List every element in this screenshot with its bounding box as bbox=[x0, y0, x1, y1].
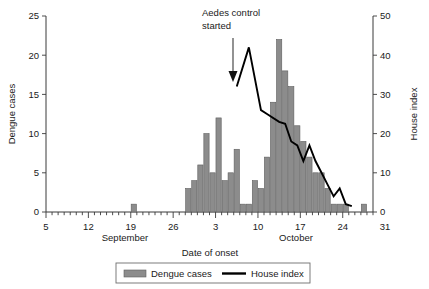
x-tick-label: 5 bbox=[43, 221, 48, 232]
legend-swatch-bar bbox=[124, 270, 146, 277]
x-tick-label: 26 bbox=[168, 221, 179, 232]
bar bbox=[228, 173, 233, 212]
x-tick-label: 3 bbox=[213, 221, 218, 232]
bar bbox=[361, 204, 366, 212]
bar bbox=[234, 149, 239, 212]
bar bbox=[301, 141, 306, 212]
annotation-arrow-head bbox=[229, 71, 238, 82]
y-tick-label-left: 25 bbox=[28, 10, 39, 21]
y-tick-label-right: 40 bbox=[380, 50, 391, 61]
dengue-house-index-chart: 0510152025 01020304050 5121926310172431 … bbox=[0, 0, 429, 289]
y-axis-right-title: House index bbox=[408, 87, 419, 140]
x-tick-label: 12 bbox=[83, 221, 94, 232]
y-axis-right-ticks: 01020304050 bbox=[373, 10, 391, 217]
bar bbox=[313, 173, 318, 212]
y-tick-label-right: 0 bbox=[380, 206, 385, 217]
bar bbox=[277, 40, 282, 212]
bar bbox=[325, 188, 330, 212]
bar bbox=[131, 204, 136, 212]
bar bbox=[295, 126, 300, 212]
y-tick-label-left: 5 bbox=[34, 167, 39, 178]
x-tick-label: 31 bbox=[380, 221, 391, 232]
month-label-october: October bbox=[279, 232, 313, 243]
annotation-line-1: Aedes control bbox=[202, 7, 260, 18]
y-axis-left-ticks: 0510152025 bbox=[28, 10, 46, 217]
bar bbox=[240, 204, 245, 212]
bar bbox=[258, 188, 263, 212]
bar bbox=[264, 157, 269, 212]
y-tick-label-left: 10 bbox=[28, 128, 39, 139]
bar bbox=[210, 173, 215, 212]
bar bbox=[337, 204, 342, 212]
annotation-aedes-control: Aedes control started bbox=[202, 7, 260, 82]
x-axis-title: Date of onset bbox=[182, 247, 239, 258]
x-tick-label: 10 bbox=[253, 221, 264, 232]
y-tick-label-right: 50 bbox=[380, 10, 391, 21]
legend-label-dengue-cases: Dengue cases bbox=[151, 268, 212, 279]
y-tick-label-left: 15 bbox=[28, 89, 39, 100]
y-tick-label-left: 20 bbox=[28, 50, 39, 61]
legend: Dengue cases House index bbox=[116, 263, 310, 283]
legend-label-house-index: House index bbox=[251, 268, 304, 279]
bar bbox=[192, 181, 197, 212]
y-tick-label-left: 0 bbox=[34, 206, 39, 217]
bar bbox=[204, 134, 209, 212]
bar bbox=[252, 181, 257, 212]
x-tick-label: 17 bbox=[295, 221, 306, 232]
y-tick-label-right: 30 bbox=[380, 89, 391, 100]
bar bbox=[331, 204, 336, 212]
month-label-september: September bbox=[102, 232, 148, 243]
bar bbox=[216, 118, 221, 212]
annotation-line-2: started bbox=[202, 20, 231, 31]
bar bbox=[283, 71, 288, 212]
bar bbox=[319, 173, 324, 212]
bar bbox=[198, 165, 203, 212]
y-tick-label-right: 20 bbox=[380, 128, 391, 139]
y-axis-left-title: Dengue cases bbox=[6, 83, 17, 144]
bar-series-dengue-cases bbox=[131, 40, 366, 212]
y-tick-label-right: 10 bbox=[380, 167, 391, 178]
bar bbox=[246, 204, 251, 212]
bar bbox=[222, 181, 227, 212]
x-tick-label: 19 bbox=[125, 221, 136, 232]
bar bbox=[289, 87, 294, 212]
x-tick-label: 24 bbox=[337, 221, 348, 232]
x-axis-ticks: 5121926310172431 bbox=[43, 212, 390, 232]
bar bbox=[186, 188, 191, 212]
bar bbox=[307, 157, 312, 212]
